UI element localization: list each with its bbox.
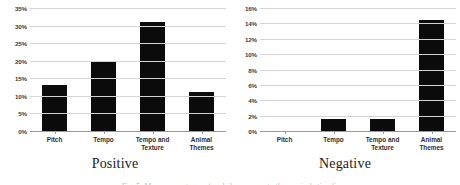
gridline: [30, 26, 226, 27]
y-axis-tick-label: 20%: [15, 57, 27, 64]
plot-wrap-positive: 0%5%10%15%20%25%30%35%: [0, 8, 230, 132]
gridline: [260, 8, 456, 9]
bar: [419, 20, 444, 131]
y-axis-positive: 0%5%10%15%20%25%30%35%: [0, 8, 30, 132]
gridline: [30, 43, 226, 44]
chart-title-positive: Positive: [0, 156, 230, 172]
bar: [189, 92, 214, 131]
x-axis-line: [260, 131, 456, 132]
y-axis-tick-label: 30%: [15, 22, 27, 29]
gridline: [30, 8, 226, 9]
category-label: Tempo and Texture: [358, 136, 407, 158]
y-axis-tick-label: 0%: [18, 128, 27, 135]
gridline: [260, 116, 456, 117]
y-axis-tick-label: 0%: [248, 128, 257, 135]
plot-area-positive: [30, 8, 226, 132]
category-label: Pitch: [260, 136, 309, 158]
gridline: [260, 54, 456, 55]
category-labels-positive: PitchTempoTempo and TextureAnimal Themes: [30, 136, 226, 158]
gridline: [260, 85, 456, 86]
plot-area-negative: [260, 8, 456, 132]
figure-caption: Fig. 5. Mean percentages of coded respon…: [0, 177, 460, 185]
category-label: Pitch: [30, 136, 79, 158]
x-axis-line: [30, 131, 226, 132]
y-axis-tick-label: 2%: [248, 112, 257, 119]
chart-panel-positive: 0%5%10%15%20%25%30%35% PitchTempoTempo a…: [0, 0, 230, 176]
y-axis-tick-label: 6%: [248, 81, 257, 88]
plot-wrap-negative: 0%2%4%6%8%10%12%14%16%: [230, 8, 460, 132]
gridline: [30, 78, 226, 79]
bar: [42, 85, 67, 131]
gridline: [260, 100, 456, 101]
gridline: [260, 39, 456, 40]
y-axis-tick-label: 4%: [248, 97, 257, 104]
y-axis-tick-label: 5%: [18, 110, 27, 117]
gridline: [260, 23, 456, 24]
figure-caption-text: Fig. 5. Mean percentages of coded respon…: [122, 182, 339, 185]
gridline: [30, 96, 226, 97]
category-labels-negative: PitchTempoTempo and TextureAnimal Themes: [260, 136, 456, 158]
gridline: [30, 113, 226, 114]
y-axis-tick-label: 10%: [245, 51, 257, 58]
category-label: Animal Themes: [407, 136, 456, 158]
category-label: Tempo and Texture: [128, 136, 177, 158]
y-axis-tick-label: 8%: [248, 66, 257, 73]
bar: [370, 119, 395, 131]
bar: [140, 22, 165, 131]
y-axis-negative: 0%2%4%6%8%10%12%14%16%: [230, 8, 260, 132]
y-axis-tick-label: 25%: [15, 40, 27, 47]
y-axis-tick-label: 35%: [15, 5, 27, 12]
category-label: Tempo: [309, 136, 358, 158]
gridline: [30, 61, 226, 62]
chart-title-negative: Negative: [230, 156, 460, 172]
bar: [321, 119, 346, 131]
charts-row: 0%5%10%15%20%25%30%35% PitchTempoTempo a…: [0, 0, 460, 176]
chart-panel-negative: 0%2%4%6%8%10%12%14%16% PitchTempoTempo a…: [230, 0, 460, 176]
y-axis-tick-label: 16%: [245, 5, 257, 12]
gridline: [260, 70, 456, 71]
y-axis-tick-label: 15%: [15, 75, 27, 82]
y-axis-tick-label: 12%: [245, 35, 257, 42]
figure-container: 0%5%10%15%20%25%30%35% PitchTempoTempo a…: [0, 0, 460, 185]
y-axis-tick-label: 10%: [15, 92, 27, 99]
category-label: Tempo: [79, 136, 128, 158]
y-axis-tick-label: 14%: [245, 20, 257, 27]
category-label: Animal Themes: [177, 136, 226, 158]
